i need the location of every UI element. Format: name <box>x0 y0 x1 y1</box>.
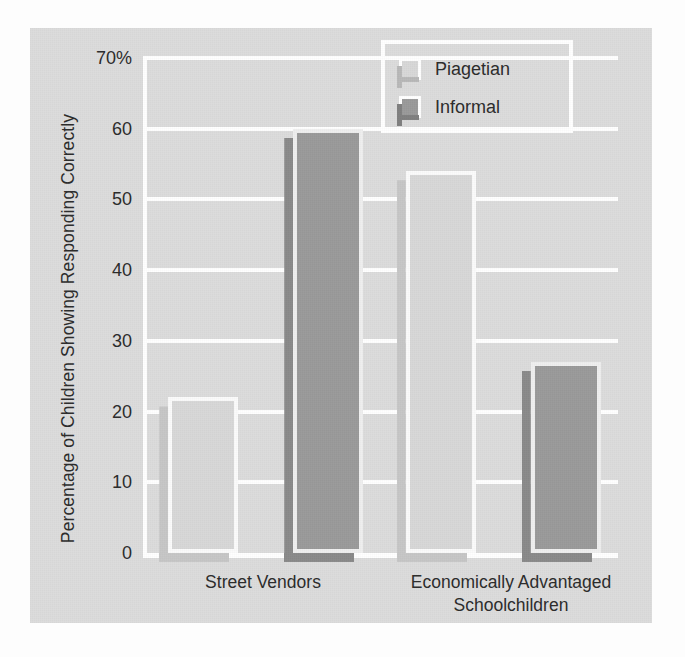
y-axis-tick-label: 70% <box>72 48 132 69</box>
legend-label-informal: Informal <box>435 97 500 118</box>
legend-item-informal: Informal <box>399 92 500 122</box>
y-axis-tick-label: 0 <box>72 543 132 564</box>
x-axis-label-line: Schoolchildren <box>366 594 652 617</box>
bar-front-face <box>531 362 601 553</box>
legend: Piagetian Informal <box>381 40 573 133</box>
gridline <box>143 268 618 272</box>
gridline <box>143 339 618 343</box>
bar-informal-schoolchildren <box>531 362 601 553</box>
y-axis-tick-label: 10 <box>72 472 132 493</box>
x-axis-label-street-vendors: Street Vendors <box>143 571 383 594</box>
y-axis-tick-labels: 70%6050403020100 <box>72 28 132 623</box>
bar-front-face <box>406 171 476 553</box>
bar-shadow <box>522 553 592 562</box>
figure-canvas: Percentage of Children Showing Respondin… <box>0 0 685 657</box>
legend-swatch-informal-icon <box>399 96 421 118</box>
y-axis-tick-label: 30 <box>72 330 132 351</box>
bar-side-face <box>397 180 406 553</box>
bar-side-face <box>522 371 531 553</box>
plot-area <box>143 58 618 558</box>
y-axis-tick-label: 40 <box>72 260 132 281</box>
y-axis-tick-label: 50 <box>72 189 132 210</box>
bar-piagetian-schoolchildren <box>406 171 476 553</box>
y-axis-tick-label: 20 <box>72 401 132 422</box>
legend-swatch-piagetian-icon <box>399 58 421 80</box>
gridline <box>143 197 618 201</box>
bar-informal-street-vendors <box>293 129 363 553</box>
x-axis-label-schoolchildren: Economically Advantaged Schoolchildren <box>366 571 652 617</box>
x-axis-label-line: Economically Advantaged <box>366 571 652 594</box>
bar-side-face <box>284 138 293 553</box>
chart-panel: Percentage of Children Showing Respondin… <box>30 28 652 623</box>
x-axis-label-line: Street Vendors <box>143 571 383 594</box>
y-axis-tick-label: 60 <box>72 118 132 139</box>
bar-shadow <box>397 553 467 562</box>
bar-shadow <box>159 553 229 562</box>
bar-front-face <box>168 397 238 553</box>
bar-side-face <box>159 406 168 553</box>
bar-shadow <box>284 553 354 562</box>
legend-label-piagetian: Piagetian <box>435 59 510 80</box>
bar-piagetian-street-vendors <box>168 397 238 553</box>
legend-item-piagetian: Piagetian <box>399 54 510 84</box>
bar-front-face <box>293 129 363 553</box>
